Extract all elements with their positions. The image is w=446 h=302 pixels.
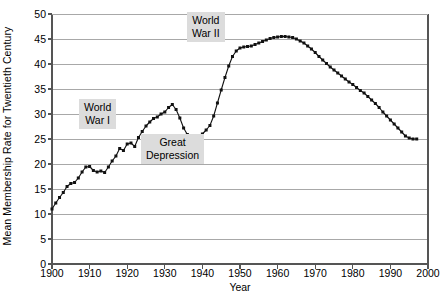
data-point [351, 83, 354, 86]
data-point [167, 106, 170, 109]
data-point [111, 160, 114, 163]
data-point [205, 129, 208, 132]
y-tick-label-text: 35 [24, 84, 46, 95]
data-point [216, 102, 219, 105]
y-tick-label-text: 50 [24, 9, 46, 20]
data-point [175, 108, 178, 111]
x-tick-label: 1910 [70, 267, 110, 280]
x-tick-label: 1960 [258, 267, 298, 280]
y-tick-label-text: 30 [24, 109, 46, 120]
data-point [393, 123, 396, 126]
x-tick-label-text: 1980 [333, 267, 373, 280]
data-point [269, 37, 272, 40]
y-tick-label-text: 40 [24, 59, 46, 70]
data-point [66, 185, 69, 188]
x-tick-label-text: 1900 [32, 267, 72, 280]
data-point [295, 38, 298, 41]
data-point [287, 36, 290, 39]
y-tick-label: 5 [24, 234, 46, 245]
y-tick-label: 45 [24, 34, 46, 45]
data-point [208, 124, 211, 127]
data-point [299, 40, 302, 43]
data-point [129, 142, 132, 145]
data-point [122, 149, 125, 152]
data-point [242, 46, 245, 49]
data-point [348, 81, 351, 84]
y-tick-label-text: 45 [24, 34, 46, 45]
data-point [88, 165, 91, 168]
data-point [118, 147, 121, 150]
x-tick-label-text: 1920 [107, 267, 147, 280]
data-point [223, 76, 226, 79]
data-point [103, 171, 106, 174]
data-point [182, 127, 185, 130]
x-tick-label-text: 1930 [145, 267, 185, 280]
data-point [51, 208, 54, 211]
x-tick-label: 2000 [408, 267, 446, 280]
data-point [126, 143, 129, 146]
data-point [306, 45, 309, 48]
y-tick-label-text: 10 [24, 209, 46, 220]
data-point [415, 138, 418, 141]
annotation-world-war-i: World War I [79, 99, 116, 129]
data-point [329, 66, 332, 69]
data-point [265, 39, 268, 42]
data-point [340, 75, 343, 78]
y-tick-label-text: 5 [24, 234, 46, 245]
data-point [246, 45, 249, 48]
data-point [396, 127, 399, 130]
data-point [363, 92, 366, 95]
y-tick-label: 10 [24, 209, 46, 220]
data-point [141, 130, 144, 133]
x-tick-label-text: 2000 [408, 267, 446, 280]
x-tick-label-text: 1990 [370, 267, 410, 280]
annotation-great-depression: Great Depression [141, 134, 204, 164]
y-tick-label: 40 [24, 59, 46, 70]
data-point [220, 89, 223, 92]
data-point [145, 125, 148, 128]
x-axis-title: Year [52, 281, 428, 294]
data-point [77, 177, 80, 180]
data-point [389, 119, 392, 122]
data-point [81, 171, 84, 174]
data-point [73, 181, 76, 184]
data-point [385, 115, 388, 118]
y-tick-label-text: 15 [24, 184, 46, 195]
data-point [239, 47, 242, 50]
x-tick-label: 1970 [295, 267, 335, 280]
data-point [69, 182, 72, 185]
x-tick-label: 1990 [370, 267, 410, 280]
data-point [280, 35, 283, 38]
chart-figure: Mean Membership Rate for Twentieth Centu… [0, 0, 446, 302]
data-point [250, 45, 253, 48]
y-tick-label-text: 25 [24, 134, 46, 145]
data-point [84, 166, 87, 169]
data-point [156, 116, 159, 119]
data-point [107, 166, 110, 169]
data-point [96, 171, 99, 174]
data-point [99, 170, 102, 173]
x-tick-label-text: 1950 [220, 267, 260, 280]
data-point [163, 111, 166, 114]
data-point [54, 202, 57, 205]
data-point [212, 115, 215, 118]
data-point [284, 35, 287, 38]
data-point [148, 121, 151, 124]
data-point [321, 59, 324, 62]
x-tick-label-text: 1960 [258, 267, 298, 280]
data-point [133, 145, 136, 148]
data-point [231, 55, 234, 58]
data-point [325, 62, 328, 65]
y-tick-label: 50 [24, 9, 46, 20]
data-point [355, 86, 358, 89]
x-tick-label: 1930 [145, 267, 185, 280]
data-point [400, 131, 403, 134]
data-point [370, 99, 373, 102]
data-point [302, 42, 305, 45]
data-point [137, 136, 140, 139]
x-tick-label: 1980 [333, 267, 373, 280]
x-tick-label-text: 1910 [70, 267, 110, 280]
data-point [261, 40, 264, 43]
x-tick-label-text: 1940 [182, 267, 222, 280]
data-point [333, 69, 336, 72]
